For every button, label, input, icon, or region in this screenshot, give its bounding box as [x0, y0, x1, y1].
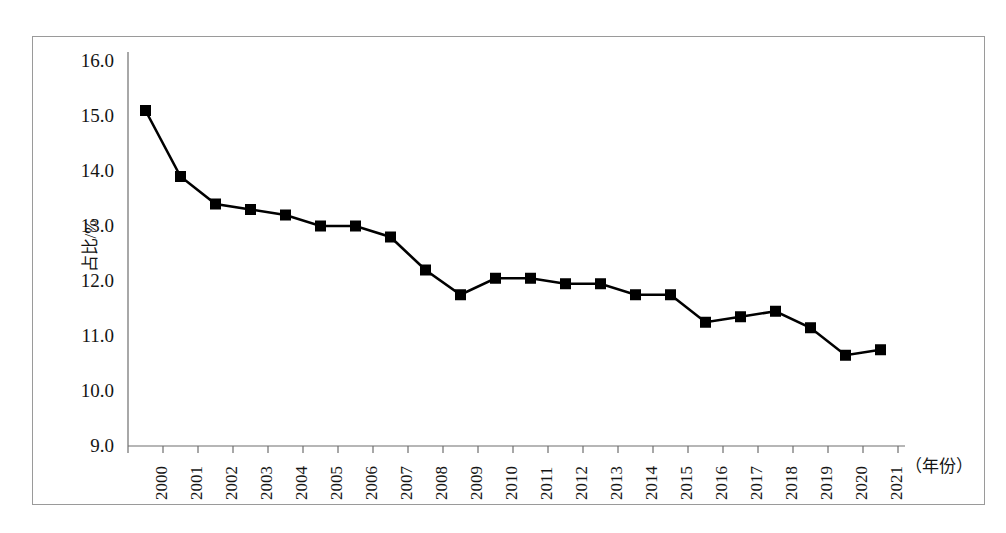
y-axis-tick-label: 12.0	[52, 271, 114, 290]
x-axis-tick-label: 2000	[153, 466, 170, 500]
y-axis-tick-label: 13.0	[52, 216, 114, 235]
x-axis-tick-label: 2016	[713, 466, 730, 500]
y-axis-tick-label: 16.0	[52, 51, 114, 70]
x-axis-tick-label: 2014	[643, 466, 660, 500]
x-axis-caption: （年份）	[905, 452, 973, 477]
x-axis-tick-label: 2004	[293, 466, 310, 500]
x-axis-tick-label: 2021	[888, 466, 905, 500]
x-axis-tick-label: 2008	[433, 466, 450, 500]
x-axis-tick-label: 2007	[398, 466, 415, 500]
x-axis-tick-label: 2020	[853, 466, 870, 500]
y-axis-tick-label: 15.0	[52, 106, 114, 125]
chart-figure: 占比/% 16.015.014.013.012.011.010.09.0 200…	[0, 0, 1006, 533]
x-axis-tick-label: 2011	[538, 467, 555, 500]
x-axis-tick-label: 2002	[223, 466, 240, 500]
x-axis-tick-label: 2019	[818, 466, 835, 500]
x-axis-tick-label: 2010	[503, 466, 520, 500]
y-axis-tick-label: 10.0	[52, 381, 114, 400]
x-axis-tick-label: 2006	[363, 466, 380, 500]
y-axis-tick-label: 14.0	[52, 161, 114, 180]
x-axis-tick-label: 2009	[468, 466, 485, 500]
x-axis-tick-label: 2017	[748, 466, 765, 500]
x-axis-tick-label: 2013	[608, 466, 625, 500]
x-axis-tick-label: 2005	[328, 466, 345, 500]
x-axis-tick-label: 2012	[573, 466, 590, 500]
x-axis-tick-label: 2015	[678, 466, 695, 500]
y-axis-tick-label: 9.0	[52, 436, 114, 455]
x-axis-tick-label: 2018	[783, 466, 800, 500]
y-axis-tick-label: 11.0	[52, 326, 114, 345]
x-axis-tick-label: 2003	[258, 466, 275, 500]
figure-border	[32, 36, 985, 505]
x-axis-tick-label: 2001	[188, 466, 205, 500]
